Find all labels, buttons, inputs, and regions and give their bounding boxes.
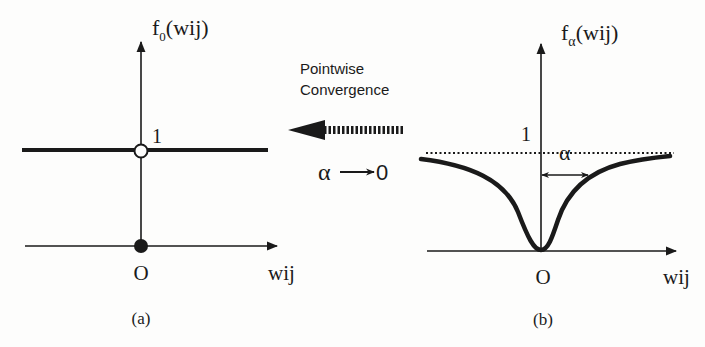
panel-b-x-label: wij: [663, 265, 690, 289]
panel-a-level-label: 1: [152, 125, 162, 147]
convergence-label-line2: Convergence: [300, 81, 389, 98]
panel-b-origin-label: O: [535, 265, 550, 289]
panel-a-open-point-icon: [135, 145, 148, 158]
panel-b-y-label: fα(wij): [561, 20, 618, 49]
panel-b-level-label: 1: [521, 123, 531, 145]
panel-a: f0(wij) 1 O wij (a): [22, 15, 295, 328]
panel-a-y-label: f0(wij): [152, 15, 209, 44]
figure-canvas: f0(wij) 1 O wij (a) Pointwise Convergenc…: [0, 0, 705, 347]
panel-b: fα(wij) 1 α O wij (b): [421, 20, 690, 329]
convergence-label-line1: Pointwise: [300, 60, 364, 77]
convergence-annotation: Pointwise Convergence α 0: [288, 60, 403, 185]
panel-a-origin-label: O: [133, 261, 148, 285]
panel-b-curve: [421, 156, 670, 250]
panel-a-x-label: wij: [268, 261, 295, 285]
panel-a-filled-point-icon: [134, 239, 148, 253]
panel-a-caption: (a): [132, 309, 151, 328]
convergence-arrow-head-icon: [288, 120, 325, 140]
alpha-limit-zero: 0: [376, 160, 388, 185]
panel-b-width-label: α: [559, 140, 571, 165]
panel-b-caption: (b): [533, 310, 553, 329]
figure: f0(wij) 1 O wij (a) Pointwise Convergenc…: [0, 0, 705, 347]
alpha-limit-label: α: [318, 159, 331, 185]
